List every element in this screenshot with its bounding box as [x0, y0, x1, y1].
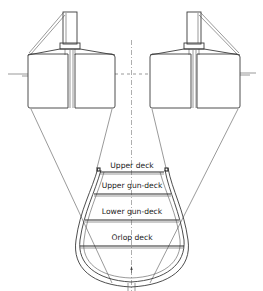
right-caisson [150, 12, 240, 108]
label-upper-gun-deck: Upper gun-deck [102, 181, 163, 190]
left-caisson-inner-half [75, 54, 115, 108]
left-caisson-outer-half [28, 54, 68, 108]
right-caisson-outer-half [197, 54, 240, 108]
label-lower-gun-deck: Lower gun-deck [102, 207, 163, 216]
hull-caisson-diagram: Upper deck Upper gun-deck Lower gun-deck… [0, 0, 263, 291]
waterline-left [8, 74, 28, 76]
label-orlop-deck: Orlop deck [111, 233, 153, 242]
right-rigging [201, 13, 239, 53]
waterline-right [240, 73, 256, 75]
right-caisson-inner-half [150, 54, 191, 108]
left-caisson [28, 12, 115, 108]
label-upper-deck: Upper deck [110, 161, 154, 170]
left-rigging [29, 13, 63, 53]
